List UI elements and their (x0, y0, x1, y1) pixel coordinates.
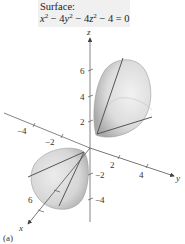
y-tick-2: 2 (110, 160, 115, 170)
3d-plot: z 6 4 2 −2 −4 −4 −2 2 4 y 6 x (0, 0, 185, 244)
z-tick-neg4: −4 (95, 195, 105, 205)
y-tick-4: 4 (139, 170, 144, 180)
x-axis-label: x (18, 223, 23, 233)
z-tick-neg2: −2 (95, 170, 105, 180)
y-tick-neg2: −2 (45, 137, 55, 147)
y-axis-label: y (175, 173, 180, 183)
y-tick-neg4: −4 (17, 126, 27, 136)
z-tick-4: 4 (80, 92, 85, 102)
x-tick-6: 6 (28, 195, 33, 205)
z-tick-6: 6 (80, 66, 85, 76)
lower-sheet (28, 148, 88, 209)
z-tick-2: 2 (80, 117, 85, 127)
z-axis-label: z (86, 27, 91, 37)
upper-sheet (94, 58, 152, 137)
z-ticks (88, 69, 93, 200)
part-label: (a) (3, 233, 13, 243)
